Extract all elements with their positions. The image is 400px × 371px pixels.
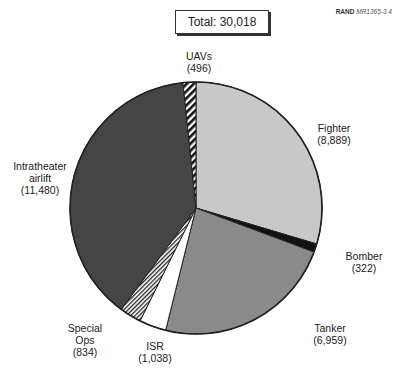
label-name: UAVs	[182, 50, 216, 62]
label-tanker: Tanker (6,959)	[302, 322, 358, 346]
label-value: (834)	[62, 346, 108, 358]
label-value: (496)	[182, 62, 216, 74]
label-bomber: Bomber (322)	[336, 250, 392, 274]
label-name: Bomber	[336, 250, 392, 262]
label-special-ops: Special Ops (834)	[62, 322, 108, 358]
label-value: (11,480)	[4, 184, 76, 196]
label-name: Special	[62, 322, 108, 334]
label-name: Ops	[62, 334, 108, 346]
label-name: ISR	[131, 340, 179, 352]
pie-slices	[70, 82, 322, 334]
label-value: (322)	[336, 262, 392, 274]
label-name: Fighter	[306, 122, 362, 134]
label-name: Tanker	[302, 322, 358, 334]
label-value: (8,889)	[306, 134, 362, 146]
label-airlift: Intratheater airlift (11,480)	[4, 160, 76, 196]
label-fighter: Fighter (8,889)	[306, 122, 362, 146]
label-value: (1,038)	[131, 352, 179, 364]
label-value: (6,959)	[302, 334, 358, 346]
label-isr: ISR (1,038)	[131, 340, 179, 364]
label-name: airlift	[4, 172, 76, 184]
label-uavs: UAVs (496)	[182, 50, 216, 74]
label-name: Intratheater	[4, 160, 76, 172]
